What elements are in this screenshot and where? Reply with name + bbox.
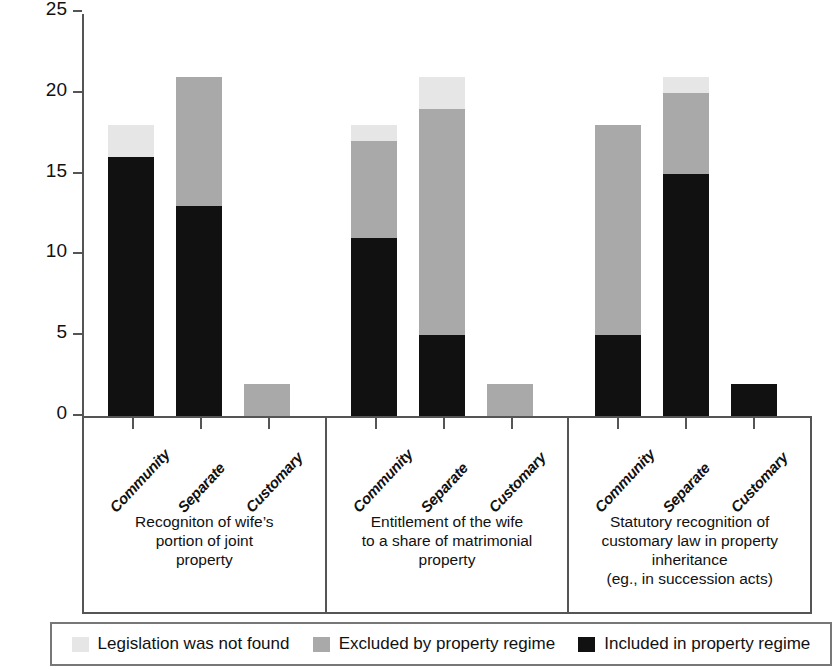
bar-segment-notfound — [663, 77, 709, 93]
x-label-community: Community — [591, 446, 658, 516]
x-label-customary: Customary — [485, 449, 549, 516]
bar-customary — [731, 384, 777, 416]
legend-item: Included in property regime — [578, 634, 810, 654]
bar-community — [351, 125, 397, 416]
bar-segment-included — [419, 335, 465, 416]
y-tick-label: 25 — [46, 0, 67, 19]
group-caption-line: Statutory recognition of — [573, 512, 806, 531]
x-tick — [132, 418, 134, 429]
bar-segment-included — [351, 238, 397, 416]
bar-segment-included — [663, 174, 709, 416]
bar-segment-excluded — [487, 384, 533, 416]
category-label-box: CommunitySeparateCustomaryRecogniton of … — [82, 418, 812, 614]
x-tick — [511, 418, 513, 429]
x-tick — [200, 418, 202, 429]
x-label-separate: Separate — [659, 459, 713, 515]
y-tick-label: 0 — [56, 403, 67, 423]
x-tick — [685, 418, 687, 429]
bar-customary — [487, 384, 533, 416]
y-tick: 20 — [73, 91, 82, 93]
x-label-community: Community — [349, 446, 416, 516]
y-tick: 0 — [73, 414, 82, 416]
bar-segment-notfound — [419, 77, 465, 109]
category-cell: CommunitySeparateCustomaryStatutory reco… — [569, 418, 810, 612]
group-caption: Statutory recognition ofcustomary law in… — [573, 512, 806, 588]
legend-label: Included in property regime — [604, 634, 810, 654]
plot-area: 0510152025 — [82, 10, 812, 418]
category-cell: CommunitySeparateCustomaryRecogniton of … — [84, 418, 327, 612]
x-tick — [753, 418, 755, 429]
bar-segment-excluded — [595, 125, 641, 335]
group-caption-line: property — [331, 550, 564, 569]
legend-swatch — [313, 637, 330, 652]
group-caption-line: portion of joint — [88, 531, 321, 550]
group-caption-line: inheritance — [573, 550, 806, 569]
rotated-label-row: CommunitySeparateCustomary — [569, 418, 810, 510]
y-tick-label: 15 — [46, 161, 67, 181]
legend-item: Legislation was not found — [72, 634, 290, 654]
bar-segment-included — [595, 335, 641, 416]
bar-segment-excluded — [176, 77, 222, 206]
group-caption-line: Entitlement of the wife — [331, 512, 564, 531]
x-tick — [268, 418, 270, 429]
chart-legend: Legislation was not foundExcluded by pro… — [50, 622, 832, 666]
bar-segment-included — [108, 157, 154, 416]
group-caption-line: customary law in property — [573, 531, 806, 550]
x-tick — [375, 418, 377, 429]
bar-separate — [663, 77, 709, 416]
bar-community — [108, 125, 154, 416]
y-tick: 10 — [73, 252, 82, 254]
bar-segment-included — [731, 384, 777, 416]
x-tick — [617, 418, 619, 429]
x-label-customary: Customary — [727, 449, 791, 516]
group-caption-line: property — [88, 550, 321, 569]
bar-segment-excluded — [244, 384, 290, 416]
group-caption-line: (eg., in succession acts) — [573, 569, 806, 588]
rotated-label-row: CommunitySeparateCustomary — [84, 418, 325, 510]
bar-separate — [419, 77, 465, 416]
bar-community — [595, 125, 641, 416]
legend-label: Excluded by property regime — [339, 634, 555, 654]
category-cell: CommunitySeparateCustomaryEntitlement of… — [327, 418, 570, 612]
group-caption-line: to a share of matrimonial — [331, 531, 564, 550]
x-tick — [443, 418, 445, 429]
y-tick: 25 — [73, 10, 82, 12]
bar-segment-notfound — [351, 125, 397, 141]
y-axis-title: Number of Sub-Saharan countries — [12, 0, 34, 36]
legend-item: Excluded by property regime — [313, 634, 555, 654]
bar-customary — [244, 384, 290, 416]
y-tick-label: 5 — [56, 322, 67, 342]
x-label-community: Community — [106, 446, 173, 516]
x-label-separate: Separate — [417, 459, 471, 515]
group-caption: Recogniton of wife’sportion of jointprop… — [88, 512, 321, 569]
bar-segment-excluded — [351, 141, 397, 238]
group-caption-line: Recogniton of wife’s — [88, 512, 321, 531]
bar-segment-notfound — [108, 125, 154, 157]
rotated-label-row: CommunitySeparateCustomary — [327, 418, 568, 510]
y-tick: 15 — [73, 172, 82, 174]
group-caption: Entitlement of the wifeto a share of mat… — [331, 512, 564, 569]
legend-swatch — [578, 637, 595, 652]
bar-segment-excluded — [419, 109, 465, 335]
y-axis-line — [82, 14, 84, 418]
y-tick-label: 20 — [46, 80, 67, 100]
bar-separate — [176, 77, 222, 416]
y-tick-label: 10 — [46, 241, 67, 261]
bar-segment-included — [176, 206, 222, 416]
legend-swatch — [72, 637, 89, 652]
legend-label: Legislation was not found — [98, 634, 290, 654]
y-axis-title-wrap: Number of Sub-Saharan countries — [10, 14, 32, 416]
y-tick: 5 — [73, 333, 82, 335]
x-label-separate: Separate — [174, 459, 228, 515]
bar-segment-excluded — [663, 93, 709, 174]
chart-figure: Number of Sub-Saharan countries 05101520… — [0, 0, 832, 670]
x-label-customary: Customary — [242, 449, 306, 516]
